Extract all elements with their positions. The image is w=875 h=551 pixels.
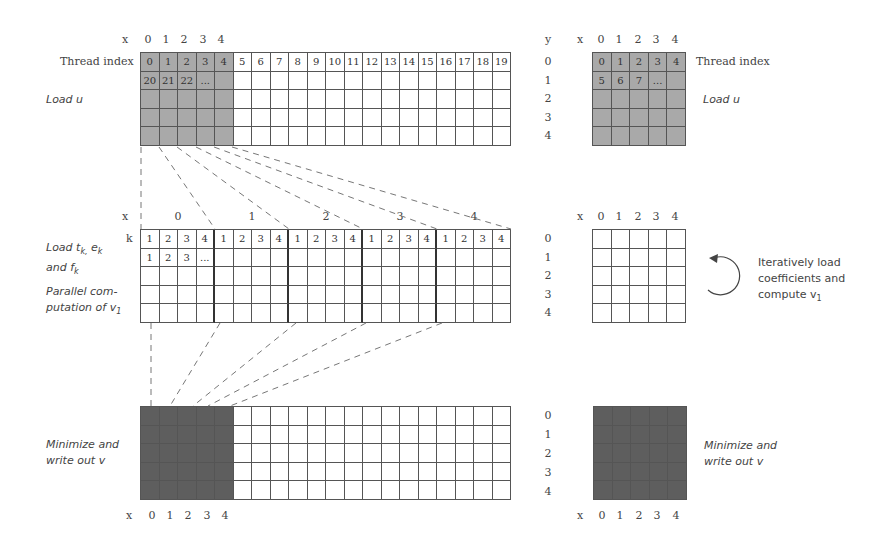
dashed-connectors	[0, 0, 875, 551]
